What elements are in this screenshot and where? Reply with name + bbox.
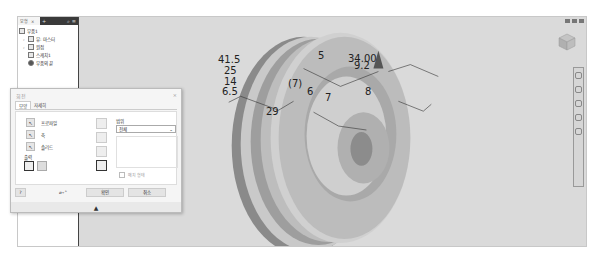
dimension-label[interactable]: 9.2 <box>354 61 370 71</box>
tree-item-end-of-part[interactable]: 부품의 끝 <box>19 59 77 67</box>
part-icon <box>19 28 25 34</box>
axis-select-icon[interactable]: ↖ <box>26 130 35 139</box>
help-button[interactable]: ? <box>15 188 26 197</box>
match-shape-option[interactable]: 매치 형태 <box>119 172 145 178</box>
add-tab-icon[interactable]: + <box>42 18 46 24</box>
tree-item-part[interactable]: 부품1 <box>19 27 77 35</box>
viewcube-icon[interactable] <box>558 33 576 51</box>
pan-icon[interactable] <box>575 86 582 93</box>
browser-toolbar: + ⌕ ≡ <box>40 17 78 25</box>
profile-selector[interactable]: ↖ 프로파일 <box>26 118 57 127</box>
tree-item-origin[interactable]: › 원점 <box>19 43 77 51</box>
restore-icon[interactable] <box>572 19 577 23</box>
tab-shape[interactable]: 모양 <box>15 101 31 109</box>
orbit-icon[interactable] <box>575 114 582 121</box>
expand-icon[interactable]: › <box>23 37 26 42</box>
collapse-grip-icon[interactable]: ▲ <box>11 202 181 212</box>
profile-select-icon[interactable]: ↖ <box>26 118 35 127</box>
dimension-label[interactable]: 29 <box>266 107 279 117</box>
dimension-label[interactable]: 25 <box>224 66 237 76</box>
ok-button[interactable]: 확인 <box>86 188 124 197</box>
sketch-icon <box>28 52 34 58</box>
tab-model-label: 모형 <box>20 18 28 24</box>
zoom-icon[interactable] <box>575 100 582 107</box>
dimension-label[interactable]: 6 <box>307 87 313 97</box>
chevron-down-icon: ⌄ <box>169 127 173 132</box>
intersect-button[interactable] <box>96 146 107 157</box>
dimension-label[interactable]: 5 <box>318 51 324 61</box>
tree-item-label: 원점 <box>36 44 44 50</box>
tree-item-label: 뷰: 마스터 <box>36 36 55 42</box>
preview-icon[interactable]: ⌀∘° <box>44 188 82 197</box>
view-icon <box>28 36 34 42</box>
output-surface-button[interactable] <box>37 161 47 171</box>
end-of-part-icon <box>28 60 34 66</box>
extent-label: 범위 <box>116 118 124 124</box>
tab-model[interactable]: 모형 × <box>18 17 40 25</box>
revolve-dialog: 회전 × 모양 자세히 ↖ 프로파일 ↖ 축 ↖ 솔리드 출력 범위 <box>10 88 182 213</box>
join-button[interactable] <box>96 118 107 129</box>
dialog-title: 회전 <box>16 92 26 99</box>
output-label: 출력 <box>24 154 32 160</box>
solid-label: 솔리드 <box>41 144 53 150</box>
dimension-label[interactable]: (7) <box>288 79 302 89</box>
window-controls <box>565 19 584 23</box>
profile-label: 프로파일 <box>41 120 57 126</box>
close-icon[interactable]: × <box>173 92 177 98</box>
dialog-tabs: 모양 자세히 <box>15 101 177 110</box>
search-icon[interactable]: ⌕ ≡ <box>67 18 76 25</box>
cut-button[interactable] <box>96 132 107 143</box>
extent-dropdown[interactable]: 전체 ⌄ <box>116 125 176 133</box>
operation-buttons <box>96 118 107 171</box>
folder-icon <box>28 44 34 50</box>
cancel-button[interactable]: 취소 <box>128 188 166 197</box>
expand-icon[interactable]: › <box>23 45 26 50</box>
dimension-label[interactable]: 7 <box>325 93 331 103</box>
close-window-icon[interactable] <box>579 19 584 23</box>
extent-options-area <box>116 136 178 168</box>
axis-selector[interactable]: ↖ 축 <box>26 130 45 139</box>
browser-tabs: 모형 × + ⌕ ≡ <box>18 17 78 25</box>
steering-wheel-icon[interactable] <box>575 72 582 79</box>
dimension-label[interactable]: 6.5 <box>222 87 238 97</box>
tab-more[interactable]: 자세히 <box>31 101 49 109</box>
new-solid-button[interactable] <box>96 160 107 171</box>
look-at-icon[interactable] <box>575 128 582 135</box>
tree-item-sketch[interactable]: 스케치1 <box>19 51 77 59</box>
match-shape-checkbox[interactable] <box>119 172 125 178</box>
solid-selector[interactable]: ↖ 솔리드 <box>26 142 53 151</box>
tree-item-label: 부품1 <box>27 28 38 34</box>
solid-select-icon[interactable]: ↖ <box>26 142 35 151</box>
close-icon[interactable]: × <box>31 19 34 24</box>
tree-item-label: 부품의 끝 <box>36 60 53 66</box>
match-shape-label: 매치 형태 <box>128 172 145 178</box>
dialog-footer: ? ⌀∘° 확인 취소 <box>15 187 177 197</box>
dimension-label[interactable]: 41.5 <box>218 55 240 65</box>
navigation-bar <box>573 67 584 187</box>
output-solid-button[interactable] <box>24 161 34 171</box>
extent-value: 전체 <box>119 126 127 132</box>
minimize-icon[interactable] <box>565 19 570 23</box>
dimension-label[interactable]: 8 <box>365 87 371 97</box>
axis-label: 축 <box>41 132 45 138</box>
dialog-body: ↖ 프로파일 ↖ 축 ↖ 솔리드 출력 범위 전체 ⌄ 매치 <box>15 111 177 185</box>
dialog-titlebar[interactable]: 회전 × <box>11 89 181 101</box>
output-buttons <box>24 161 47 171</box>
tree-item-label: 스케치1 <box>36 52 51 58</box>
browser-tree: 부품1 › 뷰: 마스터 › 원점 스케치1 부품의 끝 <box>18 25 78 69</box>
tree-item-view[interactable]: › 뷰: 마스터 <box>19 35 77 43</box>
